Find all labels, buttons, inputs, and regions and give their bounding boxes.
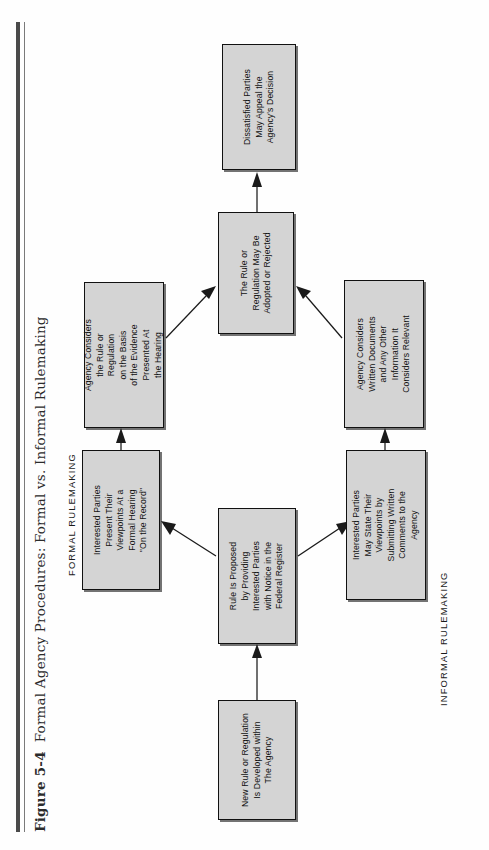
node-label: Dissatisfied PartiesMay Appeal theAgency… — [242, 69, 277, 145]
header-rule-thick — [16, 22, 20, 832]
node-label: Interested PartiesPresent TheirViewpoint… — [92, 485, 150, 555]
node-label: New Rule or RegulationIs Developed withi… — [240, 713, 275, 807]
node-label: Agency Considersthe Rule orRegulationon … — [83, 319, 164, 391]
node-interested-parties-written-comments[interactable]: Interested PartiesMay State TheirViewpoi… — [346, 450, 426, 600]
node-rule-adopted-or-rejected[interactable]: The Rule orRegulation May BeAdopted or R… — [218, 212, 294, 334]
node-label: Rule Is Proposedby ProvidingInterested P… — [228, 541, 286, 611]
node-agency-considers-written-documents[interactable]: Agency ConsidersWritten Documentsand Any… — [344, 280, 424, 428]
figure-number: Figure 5-4 — [32, 751, 48, 832]
node-agency-considers-hearing-evidence[interactable]: Agency Considersthe Rule orRegulationon … — [84, 282, 164, 428]
header-rule-thin — [24, 22, 25, 832]
node-new-rule-developed[interactable]: New Rule or RegulationIs Developed withi… — [218, 700, 296, 820]
figure-title: Formal Agency Procedures: Formal vs. Inf… — [32, 316, 48, 742]
node-rule-proposed-federal-register[interactable]: Rule Is Proposedby ProvidingInterested P… — [218, 508, 296, 644]
section-label-informal: INFORMAL RULEMAKING — [438, 571, 449, 706]
figure-page: Figure 5-4Formal Agency Procedures: Form… — [0, 0, 489, 850]
node-interested-parties-formal-hearing[interactable]: Interested PartiesPresent TheirViewpoint… — [82, 450, 160, 590]
section-label-formal: FORMAL RULEMAKING — [66, 453, 77, 576]
figure-caption: Figure 5-4Formal Agency Procedures: Form… — [32, 22, 58, 832]
node-label: Interested PartiesMay State TheirViewpoi… — [351, 489, 421, 562]
node-label: The Rule orRegulation May BeAdopted or R… — [239, 232, 274, 313]
node-label: Agency ConsidersWritten Documentsand Any… — [355, 315, 413, 393]
node-dissatisfied-parties-appeal[interactable]: Dissatisfied PartiesMay Appeal theAgency… — [222, 44, 296, 170]
